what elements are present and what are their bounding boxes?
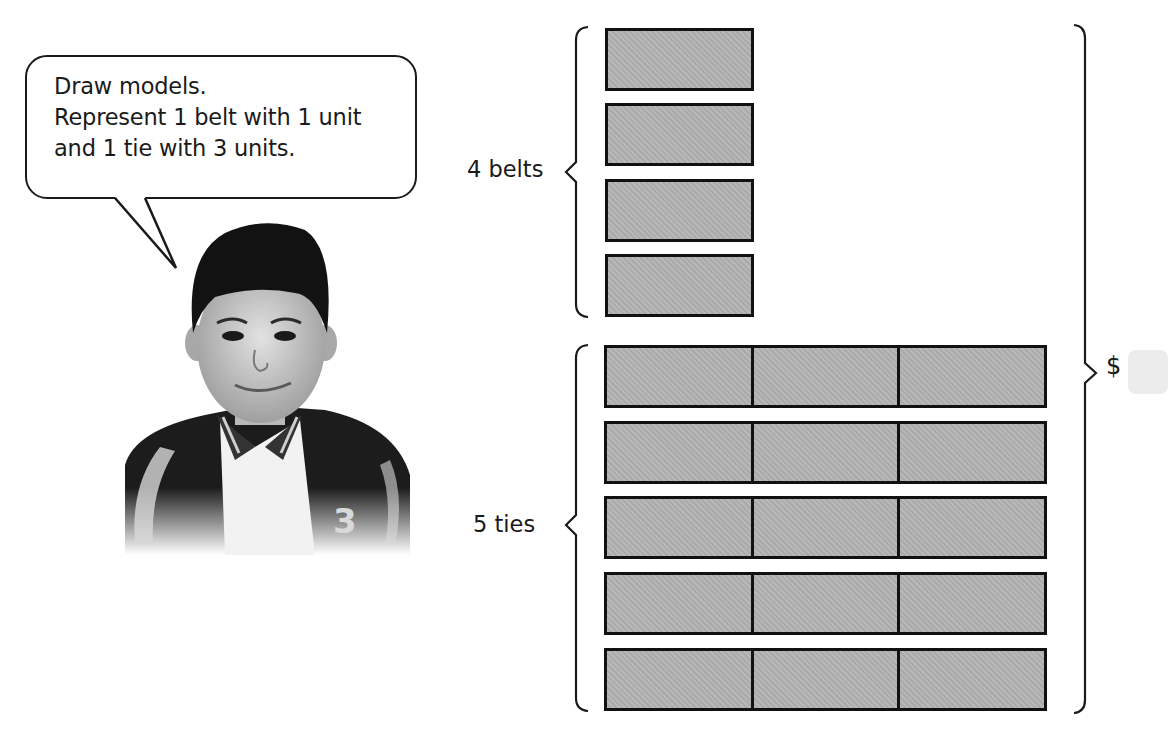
answer-box[interactable]: [1128, 350, 1168, 394]
total-brace: [1074, 25, 1096, 713]
belts-brace: [566, 27, 588, 317]
total-dollar-sign: $: [1106, 352, 1121, 380]
ties-brace: [566, 345, 588, 711]
